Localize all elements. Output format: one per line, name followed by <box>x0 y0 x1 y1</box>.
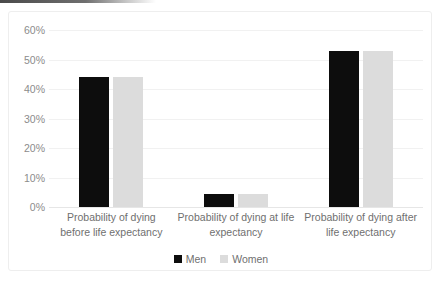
bar-men[interactable] <box>204 194 234 207</box>
y-axis-tick-label: 10% <box>11 173 45 183</box>
x-axis-label-line: Probability of dying after <box>292 210 429 225</box>
y-axis-tick-label: 30% <box>11 114 45 124</box>
gridline <box>49 207 423 208</box>
x-axis-label-line: before life expectancy <box>43 225 180 240</box>
bar-group <box>174 30 299 207</box>
y-axis-tick-label: 20% <box>11 143 45 153</box>
plot-area <box>49 30 423 207</box>
x-axis-label: Probability of dying afterlife expectanc… <box>292 210 429 240</box>
bar-group <box>298 30 423 207</box>
y-axis-tick-label: 0% <box>11 202 45 212</box>
legend-item-men[interactable]: Men <box>174 253 206 265</box>
x-axis-label-line: Probability of dying <box>43 210 180 225</box>
legend-label: Men <box>186 253 206 265</box>
legend-swatch-icon <box>174 255 182 263</box>
x-axis-category-labels: Probability of dyingbefore life expectan… <box>49 210 423 252</box>
cropped-content-sliver <box>0 0 156 3</box>
chart-container: 60%50%40%30%20%10%0% Probability of dyin… <box>8 11 432 271</box>
legend-item-women[interactable]: Women <box>220 253 268 265</box>
bar-women[interactable] <box>113 77 143 207</box>
x-axis-label: Probability of dying at lifeexpectancy <box>168 210 305 240</box>
bar-women[interactable] <box>238 194 268 207</box>
y-axis-tick-label: 60% <box>11 25 45 35</box>
bar-women[interactable] <box>363 51 393 207</box>
x-axis-label-line: life expectancy <box>292 225 429 240</box>
bar-men[interactable] <box>79 77 109 207</box>
y-axis-tick-label: 50% <box>11 55 45 65</box>
x-axis-label-line: expectancy <box>168 225 305 240</box>
y-axis: 60%50%40%30%20%10%0% <box>9 30 45 207</box>
y-axis-tick-label: 40% <box>11 84 45 94</box>
bar-group <box>49 30 174 207</box>
bar-men[interactable] <box>329 51 359 207</box>
legend-swatch-icon <box>220 255 228 263</box>
legend-label: Women <box>232 253 268 265</box>
x-axis-label: Probability of dyingbefore life expectan… <box>43 210 180 240</box>
chart-legend: MenWomen <box>9 253 433 265</box>
x-axis-label-line: Probability of dying at life <box>168 210 305 225</box>
